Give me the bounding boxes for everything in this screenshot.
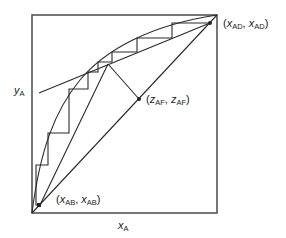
y-axis-label: yA xyxy=(14,84,25,98)
feed-label: (zAF, zAF) xyxy=(146,93,190,107)
distillate-label: (xAD, xAD) xyxy=(223,17,268,31)
mccabe-thiele-diagram xyxy=(0,0,286,238)
bottoms-label: (xAB, xAB) xyxy=(56,193,101,207)
q-line xyxy=(108,64,139,99)
x-axis-label: xA xyxy=(118,219,129,233)
bottoms-point xyxy=(37,203,41,207)
feed-point xyxy=(137,97,141,101)
stripping-operating-line xyxy=(40,64,108,205)
distillate-point xyxy=(208,21,212,25)
